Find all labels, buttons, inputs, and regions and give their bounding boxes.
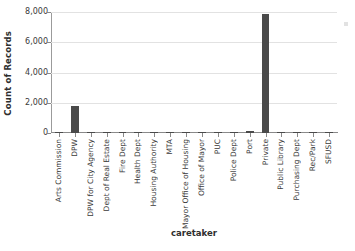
x-tick-label: Housing Authority xyxy=(150,139,158,207)
gridline xyxy=(51,73,337,74)
x-tick-label: Private xyxy=(262,139,270,165)
x-tick-label: DPW xyxy=(71,139,79,157)
x-tick-mark xyxy=(281,133,282,137)
x-tick-mark xyxy=(313,133,314,137)
x-tick-mark xyxy=(138,133,139,137)
x-axis-tick-labels: Arts CommissionDPWDPW for City AgencyDep… xyxy=(51,139,341,224)
x-tick-label: SFUSD xyxy=(325,139,333,164)
gridline xyxy=(51,103,337,104)
bar-chart: Count of Records 02,0004,0006,0008,000 A… xyxy=(0,0,355,251)
x-tick-label: PUC xyxy=(214,139,222,154)
y-tick-mark xyxy=(47,73,51,74)
x-tick-mark xyxy=(329,133,330,137)
y-tick-mark xyxy=(47,103,51,104)
x-tick-label: Police Dept xyxy=(230,139,238,181)
x-tick-label: DPW for City Agency xyxy=(87,139,95,217)
x-tick-mark xyxy=(123,133,124,137)
y-tick-mark xyxy=(47,12,51,13)
x-tick-mark xyxy=(107,133,108,137)
plot-area xyxy=(51,12,337,133)
bar[interactable] xyxy=(262,14,270,133)
x-tick-label: MTA xyxy=(166,139,174,155)
gridline xyxy=(51,42,337,43)
x-tick-label: Public Library xyxy=(277,139,285,190)
x-tick-mark xyxy=(75,133,76,137)
x-tick-label: Port xyxy=(246,139,254,154)
x-tick-mark xyxy=(297,133,298,137)
x-tick-mark xyxy=(202,133,203,137)
x-tick-label: Arts Commission xyxy=(55,139,63,202)
bar[interactable] xyxy=(71,106,79,133)
y-axis-tick-labels: 02,0004,0006,0008,000 xyxy=(12,0,48,145)
y-tick-label: 4,000 xyxy=(12,69,48,77)
x-axis-title: caretaker xyxy=(51,228,337,238)
x-tick-label: Purchasing Dept xyxy=(293,139,301,201)
scan-artifact xyxy=(344,22,348,26)
y-tick-mark xyxy=(47,133,51,134)
y-tick-label: 0 xyxy=(12,129,48,137)
x-tick-label: Dept of Real Estate xyxy=(103,139,111,211)
x-tick-mark xyxy=(59,133,60,137)
x-tick-mark xyxy=(218,133,219,137)
x-tick-label: Health Dept xyxy=(134,139,142,184)
x-tick-label: Mayor Office of Housing xyxy=(182,139,190,229)
x-tick-label: Rec/Park xyxy=(309,139,317,171)
x-tick-label: Office of Mayor xyxy=(198,139,206,196)
y-tick-label: 6,000 xyxy=(12,38,48,46)
x-tick-mark xyxy=(186,133,187,137)
x-tick-mark xyxy=(154,133,155,137)
x-tick-mark xyxy=(266,133,267,137)
x-tick-label: Fire Dept xyxy=(119,139,127,173)
y-tick-label: 8,000 xyxy=(12,8,48,16)
x-tick-mark xyxy=(91,133,92,137)
gridline xyxy=(51,12,337,13)
x-tick-mark xyxy=(250,133,251,137)
y-tick-mark xyxy=(47,42,51,43)
y-tick-label: 2,000 xyxy=(12,99,48,107)
x-tick-mark xyxy=(170,133,171,137)
x-tick-mark xyxy=(234,133,235,137)
